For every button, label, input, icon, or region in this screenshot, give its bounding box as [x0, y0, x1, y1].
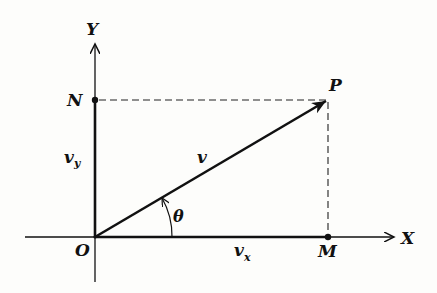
theta-label: θ: [173, 207, 184, 226]
vector-v: [95, 101, 326, 237]
svg-text:y: y: [73, 157, 82, 170]
theta-arc: [162, 198, 172, 237]
point-o-dot: [93, 235, 96, 238]
point-m-dot: [325, 234, 331, 240]
vector-v-label: v: [197, 147, 208, 167]
x-axis-label: X: [400, 228, 415, 248]
point-o-label: O: [75, 240, 90, 260]
point-n-dot: [92, 97, 98, 103]
svg-text:x: x: [243, 251, 251, 264]
point-m-label: M: [317, 241, 338, 261]
point-p-label: P: [328, 75, 343, 95]
vy-label: v y: [64, 147, 82, 170]
point-n-label: N: [66, 90, 84, 110]
vx-label: v x: [234, 240, 251, 264]
y-axis-label: Y: [86, 19, 100, 39]
vector-diagram: Y X N P O M v v y v x θ: [0, 0, 437, 293]
